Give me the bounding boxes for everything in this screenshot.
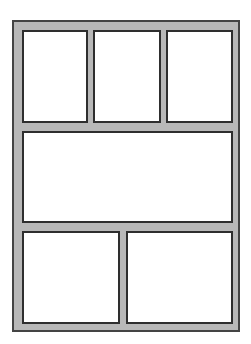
panel-row2-wide bbox=[22, 131, 233, 223]
panel-row3-right bbox=[126, 231, 233, 324]
panel-row1-middle bbox=[93, 30, 161, 123]
panel-row3-left bbox=[22, 231, 120, 324]
panel-row1-right bbox=[166, 30, 233, 123]
panel-row1-left bbox=[22, 30, 88, 123]
